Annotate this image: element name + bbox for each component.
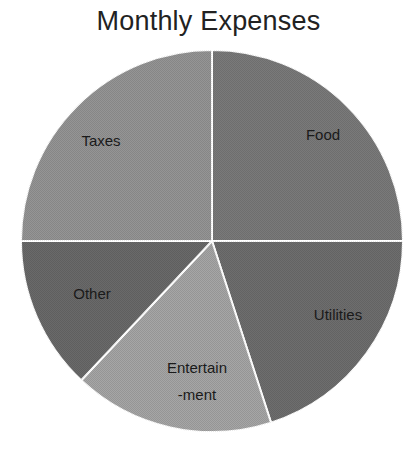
slice-label-food: Food xyxy=(306,126,340,143)
slice-label-taxes: Taxes xyxy=(81,132,120,149)
pie-chart: FoodUtilitiesEntertain-mentOtherTaxes xyxy=(0,0,417,451)
pie-slice-texture xyxy=(212,50,403,241)
slice-label-utilities: Utilities xyxy=(314,306,362,323)
slice-label-other: Other xyxy=(73,285,111,302)
